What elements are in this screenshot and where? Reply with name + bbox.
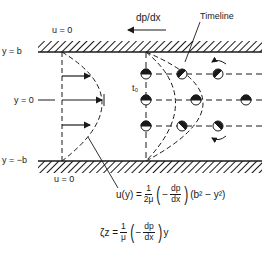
timeline-label: Timeline [200, 12, 234, 21]
timelines [146, 52, 203, 161]
bottom-wall [38, 161, 262, 173]
velocity-coefficient: 12μ [144, 184, 154, 204]
bottom-wall-boundary-condition: u = 0 [54, 175, 74, 184]
vorticity-pressure-gradient: dpdx [143, 222, 154, 242]
pressure-gradient-label: dp/dx [136, 13, 160, 23]
top-wall [38, 41, 262, 52]
velocity-pressure-gradient: dpdx [170, 184, 181, 204]
reference-lines [146, 52, 262, 161]
vorticity-coefficient: 1μ [120, 222, 127, 242]
top-wall-boundary-condition: u = 0 [52, 26, 72, 35]
y-bottom-label: y = −b [2, 156, 27, 165]
t0-label: t₀ [132, 84, 138, 93]
vorticity-equation: ζz = 1μ ( − dpdx ) y [100, 222, 168, 242]
velocity-equation: u(y) = 12μ ( − dpdx ) (b² − y²) [116, 184, 225, 204]
y-top-label: y = b [2, 47, 22, 56]
channel-flow-diagram [0, 0, 276, 254]
y-center-label: y = 0 [14, 96, 34, 105]
